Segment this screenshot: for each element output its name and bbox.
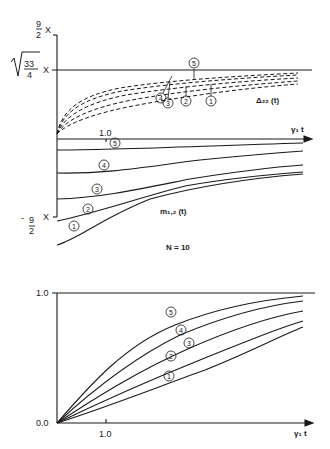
bottom-x-axis-label: γ₁ t — [294, 429, 307, 438]
y-bot-num: 9 — [29, 215, 34, 225]
y-mid-num: 33 — [24, 59, 34, 69]
top-circles — [69, 58, 216, 231]
y-bot-sign: - — [21, 213, 24, 223]
y-bot-var: X — [43, 212, 49, 222]
bottom-x-tick-label: 1.0 — [99, 429, 112, 439]
top-x-axis-label: γ₁ t — [291, 125, 304, 134]
circle-num-m1: 1 — [72, 223, 76, 230]
circle-num-3: 3 — [166, 100, 170, 107]
bottom-circle-num-1: 1 — [167, 373, 171, 380]
bottom-curve-1 — [57, 327, 303, 423]
m-curve-5 — [57, 143, 303, 150]
circle-num-4: 4 — [159, 95, 163, 102]
y-mid-var: X — [43, 65, 49, 75]
bottom-circle-num-2: 2 — [169, 353, 173, 360]
bottom-y-bot-label: 0.0 — [36, 418, 49, 428]
bottom-x-axis-arrow-icon — [305, 420, 313, 426]
circle-num-m4: 4 — [102, 162, 106, 169]
circle-num-m3: 3 — [95, 186, 99, 193]
circle-num-m5: 5 — [113, 140, 117, 147]
delta-leaders — [163, 69, 211, 98]
bottom-curve-2 — [57, 321, 303, 423]
y-top-var: X — [45, 25, 51, 35]
delta-curve-2 — [57, 81, 298, 134]
bottom-circle-num-5: 5 — [169, 309, 173, 316]
m-curve-4 — [57, 151, 303, 173]
circle-num-2: 2 — [184, 98, 188, 105]
y-mid-den: 4 — [27, 70, 32, 80]
m-curve-3 — [57, 165, 303, 199]
circle-num-m2: 2 — [86, 206, 90, 213]
y-bot-den: 2 — [29, 226, 34, 236]
top-x-axis-arrow-icon — [304, 136, 312, 142]
delta-label: Δ₂₂ (t) — [256, 96, 279, 105]
y-top-num: 9 — [36, 19, 41, 29]
bottom-y-top-label: 1.0 — [36, 288, 49, 298]
delta-curve-3 — [57, 78, 298, 134]
n-label: N = 10 — [166, 243, 190, 252]
bottom-circle-num-4: 4 — [179, 327, 183, 334]
m-curves — [57, 143, 303, 245]
figure-canvas: 9 2 X 33 4 X - 9 2 X 1.0 γ₁ t Δ₂₂ (t) m₁… — [0, 0, 330, 449]
y-top-den: 2 — [36, 30, 41, 40]
bottom-circle-num-3: 3 — [187, 340, 191, 347]
bottom-curves — [57, 296, 303, 423]
circle-num-5: 5 — [192, 60, 196, 67]
m-label: m₁,₂ (t) — [160, 207, 187, 216]
bottom-curve-5 — [57, 296, 303, 423]
top-x-tick-label: 1.0 — [99, 128, 112, 138]
circle-num-1: 1 — [209, 98, 213, 105]
delta-curve-1 — [57, 84, 298, 134]
